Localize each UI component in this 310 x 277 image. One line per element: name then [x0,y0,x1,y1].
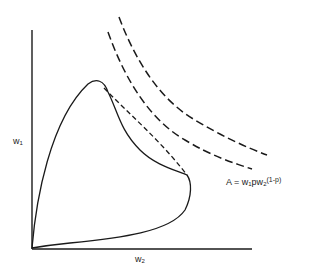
formula-suffix: (1-p) [266,176,281,183]
indifference-curve-inner [108,32,252,169]
tangent-line [104,88,187,175]
x-axis-label: w2 [135,254,145,264]
feasible-set-boundary [32,81,191,248]
formula-mid: pw [252,177,264,187]
utility-formula: A = w1pw2(1-p) [226,176,281,187]
indifference-curve-outer [119,17,267,155]
x-axis-label-subscript: 2 [142,258,145,264]
formula-prefix: A = w [226,177,248,187]
diagram-canvas [0,0,310,277]
y-axis-label-subscript: 1 [20,140,23,146]
y-axis-label: w1 [13,136,23,146]
